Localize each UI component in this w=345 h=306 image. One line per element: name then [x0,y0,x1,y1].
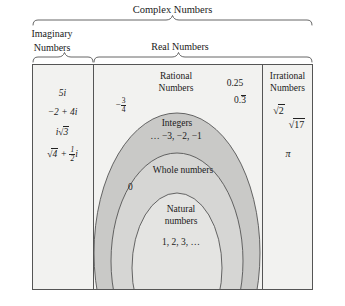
imaginary-example-i-sqrt3: i√3 [32,126,93,137]
natural-numbers-examples: 1, 2, 3, … [144,237,218,248]
whole-numbers-examples: 0 [128,182,152,193]
rational-title-line2: Numbers [159,83,194,93]
repeating-decimal-prefix: 0. [234,95,241,105]
imaginary-example-sqrt4-plus-half-i: √4 + 1 2 i [32,146,93,163]
rational-example-0-25: 0.25 [216,78,254,89]
radicand-2: 2 [278,104,285,117]
irrational-title-line2: Numbers [270,83,305,93]
radicand-4: 4 [51,148,58,159]
irrational-title-line1: Irrational [270,71,305,81]
imaginary-example-neg2-plus-4i: −2 + 4i [32,107,93,117]
irrational-example-pi: π [275,148,301,160]
rational-example-0-3-repeating: 0.3 [221,95,259,106]
natural-title-line2: numbers [165,216,198,226]
natural-title-line1: Natural [167,204,196,214]
divider-imaginary-real [93,64,94,290]
fraction-numerator: 3 [121,97,127,105]
irrational-numbers-label: Irrational Numbers [262,70,313,95]
rational-numbers-label: Rational Numbers [136,70,216,95]
irrational-example-sqrt2: √2 [264,104,294,117]
i-suffix: i [75,149,78,159]
rational-title-line1: Rational [160,71,192,81]
radicand-17: 17 [293,118,305,131]
plus-sign: + [61,149,67,159]
number-sets-diagram: Complex Numbers Imaginary Numbers Real N… [0,0,345,306]
whole-numbers-label: Whole numbers [140,165,226,176]
fraction-three-fourths: 3 4 [121,97,127,114]
fraction-denominator: 4 [121,105,127,114]
natural-numbers-label: Natural numbers [152,203,210,228]
integers-label: Integers [138,118,216,129]
rational-example-negative-fraction: − 3 4 [104,97,138,114]
radicand-3: 3 [63,126,70,137]
integers-examples: … −3, −2, −1 [120,131,232,142]
irrational-example-sqrt17: √17 [280,118,314,131]
divider-real-irrational [262,64,263,290]
repeating-decimal-digit: 3 [241,95,246,106]
imaginary-example-5i: 5i [32,88,93,98]
